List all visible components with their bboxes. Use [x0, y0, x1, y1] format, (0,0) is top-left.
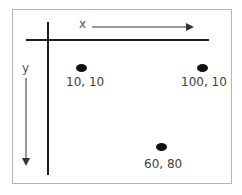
point-marker [76, 64, 87, 72]
point-marker [156, 143, 167, 151]
x-direction-arrow-icon [92, 22, 196, 32]
y-direction-arrow-icon [21, 78, 31, 170]
x-axis-label: x [79, 17, 86, 31]
y-axis-label: y [22, 61, 29, 75]
point-label: 100, 10 [181, 75, 227, 89]
point-label: 10, 10 [66, 75, 104, 89]
diagram-frame [12, 9, 232, 184]
point-label: 60, 80 [144, 157, 182, 171]
y-axis-line [47, 22, 49, 175]
point-marker [197, 64, 208, 72]
x-axis-line [26, 39, 209, 41]
